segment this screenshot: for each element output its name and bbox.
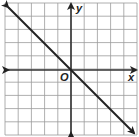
coordinate-plane [0, 0, 139, 137]
x-axis-label: x [128, 72, 134, 83]
origin-label: O [60, 72, 69, 83]
y-axis-label: y [76, 3, 82, 14]
